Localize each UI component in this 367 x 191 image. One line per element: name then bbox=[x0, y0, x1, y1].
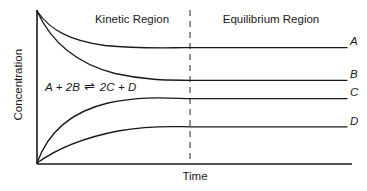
curve-series-C bbox=[37, 98, 347, 163]
equilibrium-arrow-icon: ⇌ bbox=[83, 80, 96, 94]
series-label-b: B bbox=[350, 69, 358, 81]
series-label-d: D bbox=[350, 116, 358, 128]
concentration-vs-time-chart: Kinetic Region Equilibrium Region Time C… bbox=[0, 0, 367, 191]
equation-products: 2C + D bbox=[100, 81, 137, 93]
y-axis-label: Concentration bbox=[13, 30, 25, 140]
chart-plot-area bbox=[0, 0, 367, 191]
series-label-a: A bbox=[350, 36, 358, 48]
curve-series-D bbox=[37, 126, 347, 163]
equation-reactants: A + 2B bbox=[45, 81, 80, 93]
reaction-equation: A + 2B ⇌ 2C + D bbox=[45, 81, 136, 94]
x-axis-label: Time bbox=[155, 171, 235, 183]
series-label-c: C bbox=[350, 87, 358, 99]
kinetic-region-label: Kinetic Region bbox=[77, 14, 187, 26]
equilibrium-region-label: Equilibrium Region bbox=[196, 14, 346, 26]
